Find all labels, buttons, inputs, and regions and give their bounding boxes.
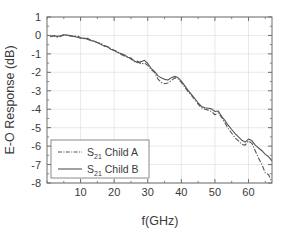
x-tick-label: 20	[108, 186, 120, 198]
y-tick-label: -7	[31, 159, 41, 171]
chart-figure: 10203040506010-1-2-3-4-5-6-7-8 S21 Child…	[0, 0, 288, 230]
y-tick-label: -8	[31, 177, 41, 189]
x-tick-label: 10	[74, 186, 86, 198]
y-tick-label: -6	[31, 140, 41, 152]
x-tick-label: 50	[209, 186, 221, 198]
y-tick-label: -4	[31, 103, 41, 115]
y-tick-label: -3	[31, 85, 41, 97]
y-tick-label: -2	[31, 66, 41, 78]
x-tick-label: 30	[142, 186, 154, 198]
y-tick-label: 0	[35, 29, 41, 41]
x-tick-label: 40	[175, 186, 187, 198]
x-tick-label: 60	[242, 186, 254, 198]
x-axis-title: f(GHz)	[142, 214, 179, 228]
chart-legend[interactable]: S21 Child AS21 Child B	[51, 140, 149, 178]
y-tick-label: -5	[31, 122, 41, 134]
y-tick-label: 1	[35, 11, 41, 23]
y-axis-title: E-O Response (dB)	[3, 45, 17, 154]
y-tick-label: -1	[31, 48, 41, 60]
